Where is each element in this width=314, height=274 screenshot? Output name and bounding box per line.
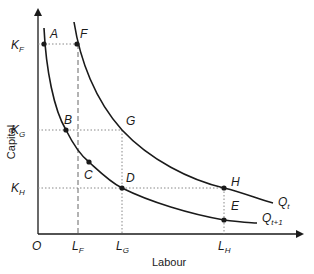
point-a-dot	[41, 41, 46, 46]
point-h-label: H	[231, 175, 240, 189]
point-f-label: F	[80, 27, 88, 41]
point-b-label: B	[64, 113, 72, 127]
point-h-dot	[221, 185, 226, 190]
curve-qt-label: Qt	[278, 195, 290, 211]
y-tick-kh: KH	[11, 181, 25, 197]
point-b-dot	[63, 127, 68, 132]
point-e-dot	[221, 217, 226, 222]
origin-label: O	[32, 239, 41, 253]
point-c-dot	[86, 159, 91, 164]
point-a-label: A	[49, 27, 58, 41]
point-d-dot	[119, 185, 124, 190]
y-tick-kf: KF	[11, 38, 25, 54]
x-axis-title: Labour	[152, 256, 187, 268]
point-g-label: G	[126, 114, 135, 128]
y-axis-title: Capital	[5, 125, 17, 159]
curve-qt1-label: Qt+1	[262, 211, 283, 227]
point-f-dot	[74, 41, 79, 46]
point-d-label: D	[126, 171, 135, 185]
point-c-label: C	[84, 168, 93, 182]
point-e-label: E	[231, 199, 240, 213]
x-tick-lh: LH	[218, 239, 231, 255]
isoquant-diagram: A F B G C D H E Qt Qt+1 KF KG KH O LF LG…	[0, 0, 314, 274]
x-tick-lg: LG	[116, 239, 129, 255]
isoquant-qt1-curve	[44, 28, 257, 223]
x-tick-lf: LF	[72, 239, 85, 255]
